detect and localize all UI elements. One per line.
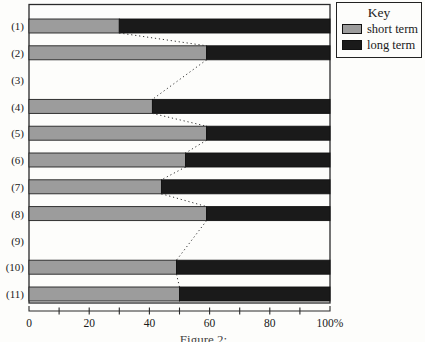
bar-segment-short-term bbox=[29, 46, 207, 60]
legend-item-label: long term bbox=[367, 38, 415, 52]
legend: Key short term long term bbox=[336, 2, 422, 58]
boundary-connector-dotted-line bbox=[176, 274, 179, 287]
figure-caption: Figure 2: ... bbox=[30, 333, 390, 342]
boundary-connector-dotted-line bbox=[152, 113, 206, 126]
category-label: (3) bbox=[11, 74, 24, 87]
bar-segment-short-term bbox=[29, 153, 186, 167]
boundary-connector-dotted-line bbox=[119, 33, 206, 46]
category-label: (6) bbox=[11, 154, 24, 167]
bar-segment-short-term bbox=[29, 260, 176, 274]
category-label: (7) bbox=[11, 181, 24, 194]
x-axis-tick-label: 20 bbox=[83, 317, 95, 329]
bar-segment-short-term bbox=[29, 126, 207, 140]
category-label: (2) bbox=[11, 47, 24, 60]
category-label: (4) bbox=[11, 101, 24, 114]
bar-segment-long-term bbox=[161, 180, 330, 194]
category-label: (10) bbox=[6, 261, 25, 274]
boundary-connector-dotted-line bbox=[161, 167, 185, 180]
bar-segment-long-term bbox=[180, 287, 331, 301]
boundary-connector-dotted-line bbox=[161, 194, 206, 207]
category-label: (1) bbox=[11, 20, 24, 33]
legend-item-long-term: long term bbox=[337, 37, 421, 53]
category-label: (11) bbox=[6, 288, 24, 301]
bar-segment-short-term bbox=[29, 19, 119, 33]
legend-item-short-term: short term bbox=[337, 21, 421, 37]
bar-segment-long-term bbox=[176, 260, 330, 274]
boundary-connector-dotted-line bbox=[152, 60, 206, 100]
bar-segment-short-term bbox=[29, 180, 161, 194]
boundary-connector-dotted-line bbox=[186, 140, 207, 153]
bar-segment-long-term bbox=[207, 46, 330, 60]
legend-title: Key bbox=[337, 5, 421, 21]
x-axis-tick-label: 60 bbox=[204, 317, 216, 329]
category-label: (8) bbox=[11, 208, 24, 221]
category-label: (5) bbox=[11, 127, 24, 140]
bar-segment-short-term bbox=[29, 287, 180, 301]
bar-segment-long-term bbox=[207, 207, 330, 221]
bar-segment-long-term bbox=[186, 153, 330, 167]
legend-item-label: short term bbox=[367, 22, 418, 36]
category-label: (9) bbox=[11, 235, 24, 248]
short-term-swatch-icon bbox=[342, 24, 362, 34]
figure: (1)(2)(3)(4)(5)(6)(7)(8)(9)(10)(11)02040… bbox=[0, 0, 425, 342]
x-axis-tick-label: 40 bbox=[144, 317, 156, 329]
bar-segment-short-term bbox=[29, 207, 207, 221]
bar-segment-long-term bbox=[207, 126, 330, 140]
x-axis-tick-label: 0 bbox=[26, 317, 32, 329]
bar-segment-long-term bbox=[152, 99, 330, 113]
x-axis-tick-label: 80 bbox=[264, 317, 276, 329]
boundary-connector-dotted-line bbox=[176, 221, 206, 261]
bar-segment-short-term bbox=[29, 99, 152, 113]
long-term-swatch-icon bbox=[342, 40, 362, 50]
bar-segment-long-term bbox=[119, 19, 330, 33]
x-axis-tick-label: 100% bbox=[317, 317, 344, 329]
